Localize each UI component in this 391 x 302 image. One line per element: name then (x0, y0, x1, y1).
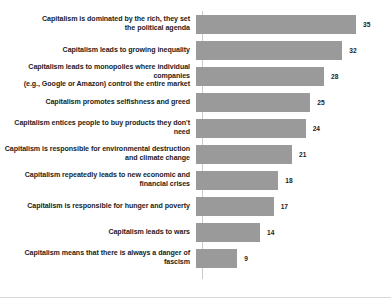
bar-track: 9 (196, 245, 391, 271)
bar-row: Capitalism leads to wars14 (0, 219, 391, 245)
bar-category-label: Capitalism entices people to buy product… (0, 119, 196, 136)
bar-value-label: 14 (267, 229, 274, 236)
bar-track: 14 (196, 219, 391, 245)
bar-category-label: Capitalism leads to growing inequality (0, 46, 196, 55)
bar-category-label: Capitalism is dominated by the rich, the… (0, 15, 196, 32)
bar (196, 171, 278, 190)
bar-value-label: 21 (299, 151, 306, 158)
bar-track: 21 (196, 141, 391, 167)
bar-row: Capitalism is responsible for environmen… (0, 141, 391, 167)
bar-row: Capitalism is responsible for hunger and… (0, 193, 391, 219)
bar-row: Capitalism entices people to buy product… (0, 115, 391, 141)
bar-value-label: 32 (349, 47, 356, 54)
bar-value-label: 25 (317, 99, 324, 106)
bar-row: Capitalism leads to monopolies where ind… (0, 63, 391, 89)
bar (196, 145, 292, 164)
bar-row: Capitalism leads to growing inequality32 (0, 37, 391, 63)
bar (196, 15, 356, 34)
bar-chart-figure: Capitalism is dominated by the rich, the… (0, 0, 391, 302)
bar (196, 41, 342, 60)
bar-track: 32 (196, 37, 391, 63)
bar-category-label: Capitalism is responsible for hunger and… (0, 202, 196, 211)
bar-row: Capitalism means that there is always a … (0, 245, 391, 271)
bar-row: Capitalism promotes selfishness and gree… (0, 89, 391, 115)
bar-track: 17 (196, 193, 391, 219)
bar-track: 25 (196, 89, 391, 115)
bar-track: 24 (196, 115, 391, 141)
bar-value-label: 18 (285, 177, 292, 184)
bar-category-label: Capitalism promotes selfishness and gree… (0, 98, 196, 107)
bar (196, 93, 310, 112)
bar-rows-container: Capitalism is dominated by the rich, the… (0, 11, 391, 271)
plot-area: Capitalism is dominated by the rich, the… (0, 11, 391, 279)
bar-category-label: Capitalism is responsible for environmen… (0, 145, 196, 162)
bar-category-label: Capitalism leads to wars (0, 228, 196, 237)
bar-category-label: Capitalism means that there is always a … (0, 249, 196, 266)
bar-category-label: Capitalism repeatedly leads to new econo… (0, 171, 196, 188)
bar-category-label: Capitalism leads to monopolies where ind… (0, 63, 196, 89)
bar-row: Capitalism is dominated by the rich, the… (0, 11, 391, 37)
bar-track: 18 (196, 167, 391, 193)
bar-track: 35 (196, 11, 391, 37)
bar-value-label: 35 (363, 21, 370, 28)
bar (196, 119, 306, 138)
bar (196, 67, 324, 86)
bar (196, 197, 274, 216)
bar (196, 249, 237, 268)
bar-value-label: 17 (281, 203, 288, 210)
bar-value-label: 28 (331, 73, 338, 80)
bar-row: Capitalism repeatedly leads to new econo… (0, 167, 391, 193)
bar (196, 223, 260, 242)
bar-value-label: 9 (244, 255, 248, 262)
bar-track: 28 (196, 63, 391, 89)
figure-bottom-rule (0, 297, 391, 298)
bar-value-label: 24 (313, 125, 320, 132)
